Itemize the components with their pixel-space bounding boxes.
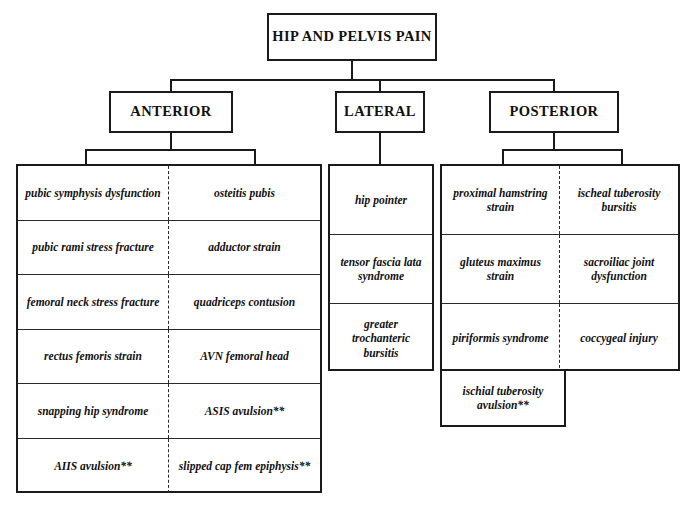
connector-lateral-stem bbox=[379, 133, 381, 164]
node-category-posterior: POSTERIOR bbox=[489, 91, 619, 133]
table-row: gluteus maximus strain sacroiliac joint … bbox=[442, 235, 678, 304]
table-row: pubic symphysis dysfunction osteitis pub… bbox=[18, 166, 320, 221]
cell-lateral: tensor fascia lata syndrome bbox=[330, 235, 432, 303]
table-row: pubic rami stress fracture adductor stra… bbox=[18, 221, 320, 276]
node-category-lateral-label: LATERAL bbox=[344, 104, 416, 120]
cell-anterior-right: quadriceps contusion bbox=[169, 275, 320, 329]
cell-anterior-right: ASIS avulsion** bbox=[169, 384, 320, 438]
connector-anterior-right-drop bbox=[254, 149, 256, 164]
table-lateral: hip pointer tensor fascia lata syndrome … bbox=[328, 164, 434, 371]
connector-anterior-left-drop bbox=[85, 149, 87, 164]
connector-drop-lateral bbox=[379, 79, 381, 91]
cell-anterior-left: AIIS avulsion** bbox=[18, 439, 169, 494]
table-row: greater trochanteric bursitis bbox=[330, 304, 432, 373]
table-row: proximal hamstring strain ischeal tubero… bbox=[442, 166, 678, 235]
table-row: AIIS avulsion** slipped cap fem epiphysi… bbox=[18, 439, 320, 494]
cell-posterior-right: ischeal tuberosity bursitis bbox=[560, 166, 678, 234]
cell-posterior-right: sacroiliac joint dysfunction bbox=[560, 235, 678, 303]
cell-posterior-extra: ischial tuberosity avulsion** bbox=[440, 371, 566, 427]
connector-posterior-bus bbox=[502, 149, 623, 151]
connector-posterior-left-drop bbox=[502, 149, 504, 164]
node-category-anterior-label: ANTERIOR bbox=[130, 104, 211, 120]
cell-anterior-right: osteitis pubis bbox=[169, 166, 320, 220]
cell-posterior-right: coccygeal injury bbox=[560, 304, 678, 373]
cell-anterior-right: AVN femoral head bbox=[169, 330, 320, 384]
cell-anterior-left: pubic symphysis dysfunction bbox=[18, 166, 169, 220]
table-posterior: proximal hamstring strain ischeal tubero… bbox=[440, 164, 680, 371]
node-root-label: HIP AND PELVIS PAIN bbox=[272, 29, 431, 45]
cell-posterior-left: gluteus maximus strain bbox=[442, 235, 560, 303]
node-root-hip-and-pelvis-pain: HIP AND PELVIS PAIN bbox=[267, 13, 437, 61]
cell-anterior-left: femoral neck stress fracture bbox=[18, 275, 169, 329]
connector-posterior-stem bbox=[553, 133, 555, 149]
connector-category-bus bbox=[170, 79, 554, 81]
cell-posterior-left: piriformis syndrome bbox=[442, 304, 560, 373]
table-row: snapping hip syndrome ASIS avulsion** bbox=[18, 384, 320, 439]
table-row: femoral neck stress fracture quadriceps … bbox=[18, 275, 320, 330]
cell-anterior-left: rectus femoris strain bbox=[18, 330, 169, 384]
connector-root-stem bbox=[351, 61, 353, 79]
table-row: tensor fascia lata syndrome bbox=[330, 235, 432, 304]
connector-anterior-stem bbox=[170, 133, 172, 149]
diagram-canvas: HIP AND PELVIS PAIN ANTERIOR LATERAL POS… bbox=[0, 0, 696, 514]
node-category-posterior-label: POSTERIOR bbox=[509, 104, 598, 120]
connector-anterior-bus bbox=[85, 149, 256, 151]
cell-anterior-right: adductor strain bbox=[169, 221, 320, 275]
cell-lateral: hip pointer bbox=[330, 166, 432, 234]
node-category-lateral: LATERAL bbox=[335, 91, 425, 133]
connector-drop-anterior bbox=[170, 79, 172, 91]
table-row: hip pointer bbox=[330, 166, 432, 235]
table-row: piriformis syndrome coccygeal injury bbox=[442, 304, 678, 373]
table-anterior: pubic symphysis dysfunction osteitis pub… bbox=[16, 164, 322, 493]
cell-anterior-right: slipped cap fem epiphysis** bbox=[169, 439, 320, 494]
connector-posterior-right-drop bbox=[621, 149, 623, 164]
cell-posterior-left: proximal hamstring strain bbox=[442, 166, 560, 234]
connector-drop-posterior bbox=[553, 79, 555, 91]
cell-anterior-left: snapping hip syndrome bbox=[18, 384, 169, 438]
cell-anterior-left: pubic rami stress fracture bbox=[18, 221, 169, 275]
cell-lateral: greater trochanteric bursitis bbox=[330, 304, 432, 373]
table-row: rectus femoris strain AVN femoral head bbox=[18, 330, 320, 385]
node-category-anterior: ANTERIOR bbox=[109, 91, 233, 133]
